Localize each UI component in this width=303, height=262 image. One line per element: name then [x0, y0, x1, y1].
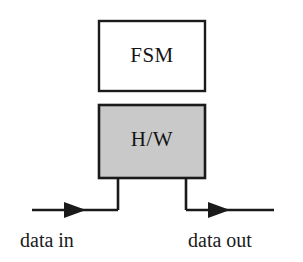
- data-in-label: data in: [20, 228, 74, 252]
- data-out-arrowhead: [208, 202, 230, 218]
- hw-block-label: H/W: [99, 126, 205, 152]
- data-in-arrowhead: [64, 202, 86, 218]
- block-diagram: FSM H/W data in data out: [0, 0, 303, 262]
- fsm-block-label: FSM: [99, 42, 205, 68]
- data-out-label: data out: [188, 228, 252, 252]
